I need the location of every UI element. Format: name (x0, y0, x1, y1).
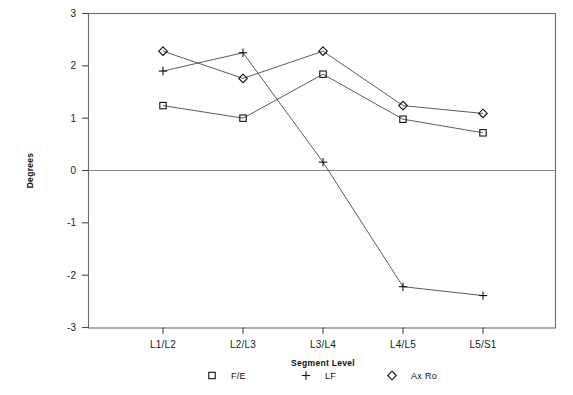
x-axis-title: Segment Level (291, 358, 355, 368)
x-axis-tick-labels: L1/L2 L2/L3 L3/L4 L4/L5 L5/S1 (150, 339, 497, 350)
line-chart: 3 2 1 0 -1 -2 -3 Degrees L1/L2 L2/L3 L3/… (0, 0, 573, 395)
y-tick-label: 1 (70, 113, 76, 124)
chart-legend: F/E LF Ax Ro (209, 371, 437, 381)
series-line-f-e (163, 74, 483, 133)
series-line-lf (163, 53, 483, 296)
legend-label-fe: F/E (231, 371, 246, 381)
data-point-lf-4 (479, 291, 487, 299)
y-axis-ticks (82, 14, 89, 328)
y-tick-label: 3 (70, 8, 76, 19)
legend-label-axro: Ax Ro (411, 371, 437, 381)
y-tick-label: -2 (67, 270, 76, 281)
legend-label-lf: LF (325, 371, 336, 381)
data-point-lf-2 (319, 158, 327, 166)
x-tick-label: L2/L3 (230, 339, 256, 350)
legend-diamond-marker (388, 371, 397, 380)
y-tick-label: -3 (67, 322, 76, 333)
data-point-lf-3 (399, 282, 407, 290)
legend-plus-marker (302, 371, 310, 379)
x-tick-label: L3/L4 (310, 339, 336, 350)
data-series-layer (159, 47, 488, 300)
x-tick-label: L5/S1 (469, 339, 496, 350)
y-axis-tick-labels: 3 2 1 0 -1 -2 -3 (67, 8, 76, 333)
y-tick-label: 2 (70, 60, 76, 71)
chart-container: 3 2 1 0 -1 -2 -3 Degrees L1/L2 L2/L3 L3/… (0, 0, 573, 395)
data-point-lf-0 (159, 67, 167, 75)
y-axis-title: Degrees (25, 153, 35, 189)
y-tick-label: 0 (70, 165, 76, 176)
legend-square-marker (209, 372, 215, 378)
data-point-lf-1 (239, 49, 247, 57)
x-tick-label: L4/L5 (390, 339, 416, 350)
x-tick-label: L1/L2 (150, 339, 176, 350)
y-tick-label: -1 (67, 217, 76, 228)
